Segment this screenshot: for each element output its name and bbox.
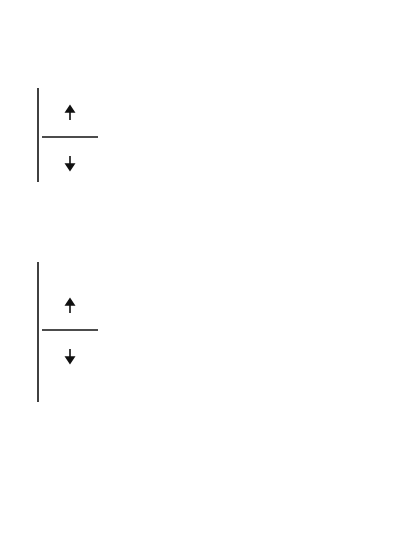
axis-legend-bottom <box>42 299 98 363</box>
mondale-hart-chart <box>0 0 406 557</box>
arrow-down-icon <box>66 156 74 170</box>
arrow-up-icon <box>66 299 74 313</box>
arrow-down-icon <box>66 349 74 363</box>
axis-legend-top <box>42 106 98 170</box>
arrow-up-icon <box>66 106 74 120</box>
